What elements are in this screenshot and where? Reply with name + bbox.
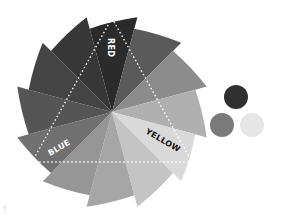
color-wheel: RED YELLOW BLUE [0,0,282,222]
swatch-yellow [240,113,264,137]
swatch-blue [210,113,234,137]
label-red: RED [106,38,115,57]
footer-mark: ! [3,206,6,215]
swatch-red [224,85,248,109]
